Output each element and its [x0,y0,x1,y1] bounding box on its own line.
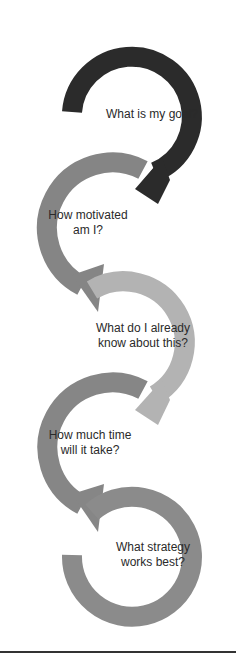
bottom-divider [0,651,236,653]
step-2-label: How motivated am I? [38,208,138,238]
step-5-label: What strategy works best? [103,540,203,570]
step-4-text-line2: will it take? [40,443,140,458]
step-3-text-line1: What do I already [88,321,198,336]
step-2-text-line2: am I? [38,223,138,238]
step-2-text-line1: How motivated [38,208,138,223]
step-4-text-line1: How much time [40,428,140,443]
step-1-label: What is my goal? [102,107,202,122]
step-5-text-line2: works best? [103,555,203,570]
step-3-label: What do I already know about this? [88,321,198,351]
arrow-ring-1 [72,57,192,204]
step-5-text-line1: What strategy [103,540,203,555]
step-3-text-line2: know about this? [88,336,198,351]
step-4-label: How much time will it take? [40,428,140,458]
arrow-ring-3 [92,281,185,425]
step-1-text: What is my goal? [106,107,198,121]
